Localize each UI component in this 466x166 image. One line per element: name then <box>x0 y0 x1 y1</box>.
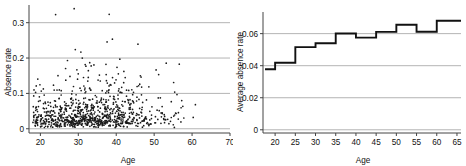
data-point <box>165 62 167 64</box>
data-point <box>136 100 138 102</box>
data-point <box>87 113 89 115</box>
data-point <box>51 110 53 112</box>
data-point <box>168 123 170 125</box>
data-point <box>132 94 134 96</box>
data-point <box>131 113 133 115</box>
data-point <box>70 101 72 103</box>
data-point <box>104 111 106 113</box>
data-point <box>48 115 50 117</box>
data-point <box>121 118 123 120</box>
data-point <box>150 123 152 125</box>
data-point <box>124 112 126 114</box>
data-point <box>164 119 166 121</box>
data-point <box>141 109 143 111</box>
y-tick-label: 0.1 <box>13 89 25 98</box>
data-point <box>117 109 119 111</box>
data-point <box>129 117 131 119</box>
data-point <box>158 110 160 112</box>
data-point <box>118 114 120 116</box>
data-point <box>65 108 67 110</box>
data-point <box>137 122 139 124</box>
data-point <box>140 75 142 77</box>
data-point <box>124 116 126 118</box>
step-x-tick-labels: 20253035404550556065 <box>271 138 462 147</box>
data-point <box>177 118 179 120</box>
data-point <box>61 119 63 121</box>
data-point <box>106 41 108 43</box>
data-point <box>100 123 102 125</box>
data-point <box>144 116 146 118</box>
x-tick-label: 40 <box>112 138 122 147</box>
y-tick-label: 0 <box>19 125 24 134</box>
data-point <box>74 49 76 51</box>
data-point <box>107 117 109 119</box>
data-point <box>113 98 115 100</box>
data-point <box>78 116 80 118</box>
data-point <box>94 111 96 113</box>
data-point <box>180 121 182 123</box>
data-point <box>129 99 131 101</box>
data-point <box>128 90 130 92</box>
data-point <box>115 123 117 125</box>
data-point <box>38 106 40 108</box>
data-point <box>170 101 172 103</box>
data-point <box>104 104 106 106</box>
data-point <box>113 103 115 105</box>
data-point <box>86 109 88 111</box>
data-point <box>44 127 46 129</box>
data-point <box>94 119 96 121</box>
data-point <box>110 108 112 110</box>
data-point <box>173 82 175 84</box>
data-point <box>55 106 57 108</box>
data-point <box>101 121 103 123</box>
data-point <box>99 101 101 103</box>
data-point <box>148 86 150 88</box>
two-panel-figure: 203040506070 00.10.20.3 Age Absence rate… <box>0 0 466 166</box>
data-point <box>72 102 74 104</box>
data-point <box>32 106 34 108</box>
data-point <box>108 125 110 127</box>
data-point <box>82 123 84 125</box>
data-point <box>122 112 124 114</box>
data-point <box>37 78 39 80</box>
data-point <box>40 90 42 92</box>
data-point <box>113 95 115 97</box>
data-point <box>80 51 82 53</box>
data-point <box>75 99 77 101</box>
data-point <box>87 70 89 72</box>
data-point <box>115 101 117 103</box>
data-point <box>103 98 105 100</box>
data-point <box>44 111 46 113</box>
data-point <box>129 103 131 105</box>
data-point <box>142 102 144 104</box>
data-point <box>149 119 151 121</box>
data-point <box>98 119 100 121</box>
data-point <box>127 118 129 120</box>
data-point <box>94 117 96 119</box>
data-point <box>96 100 98 102</box>
data-point <box>60 110 62 112</box>
data-point <box>53 115 55 117</box>
data-point <box>53 110 55 112</box>
data-point <box>71 122 73 124</box>
data-point <box>141 115 143 117</box>
panel-scatter-absence-vs-age: 203040506070 00.10.20.3 Age Absence rate <box>0 0 233 166</box>
data-point <box>72 110 74 112</box>
data-point <box>118 112 120 114</box>
data-point <box>69 76 71 78</box>
data-point <box>114 116 116 118</box>
data-point <box>102 124 104 126</box>
scatter-x-tick-labels: 203040506070 <box>36 138 233 147</box>
data-point <box>97 118 99 120</box>
data-point <box>106 109 108 111</box>
data-point <box>84 92 86 94</box>
data-point <box>119 92 121 94</box>
data-point <box>105 120 107 122</box>
data-point <box>115 79 117 81</box>
data-point <box>151 118 153 120</box>
data-point <box>35 106 37 108</box>
data-point <box>43 103 45 105</box>
data-point <box>77 107 79 109</box>
data-point <box>178 63 180 65</box>
data-point <box>120 120 122 122</box>
